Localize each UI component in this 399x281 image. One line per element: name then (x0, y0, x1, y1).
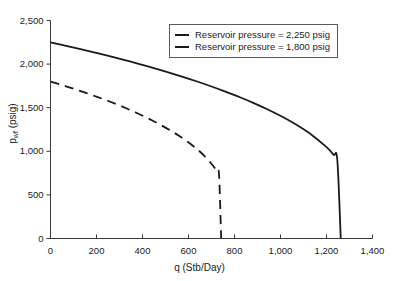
x-tick-label: 1,400 (361, 246, 385, 256)
legend-label: Reservoir pressure = 1,800 psig (195, 42, 330, 52)
ipr-chart-figure: 05001,0001,5002,0002,500 02004006008001,… (0, 0, 399, 281)
y-axis-title-base: p (7, 138, 18, 144)
legend-line-icon (175, 46, 189, 48)
y-axis-ticks (47, 21, 51, 239)
x-tick-label: 200 (89, 246, 105, 256)
x-axis-title: q (Stb/Day) (0, 262, 399, 273)
chart-legend: Reservoir pressure = 2,250 psigReservoir… (169, 24, 338, 58)
x-tick-label: 600 (181, 246, 197, 256)
y-tick-label: 2,500 (0, 16, 44, 26)
x-tick-label: 0 (48, 246, 53, 256)
y-axis-title: pwf (psig) (7, 79, 18, 169)
curve-series-0 (51, 42, 341, 238)
y-tick-label: 2,000 (0, 59, 44, 69)
x-tick-label: 1,000 (269, 246, 293, 256)
legend-item: Reservoir pressure = 1,800 psig (175, 41, 330, 53)
x-tick-label: 400 (135, 246, 151, 256)
legend-line-icon (175, 34, 189, 36)
y-axis-title-unit: (psig) (7, 103, 18, 131)
legend-item: Reservoir pressure = 2,250 psig (175, 29, 330, 41)
curve-series-1 (51, 82, 222, 239)
y-tick-label: 0 (0, 234, 44, 244)
data-curves (51, 42, 341, 238)
y-axis-title-subscript: wf (12, 131, 19, 138)
y-tick-label: 500 (0, 190, 44, 200)
x-tick-label: 800 (227, 246, 243, 256)
x-axis-ticks (51, 235, 373, 239)
x-tick-label: 1,200 (315, 246, 339, 256)
legend-label: Reservoir pressure = 2,250 psig (195, 30, 330, 40)
